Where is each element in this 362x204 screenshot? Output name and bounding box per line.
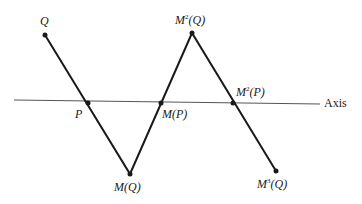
label-M2Q-arg: (Q) <box>189 13 206 27</box>
label-M2P-base: M <box>236 85 246 99</box>
label-M3Q: M3(Q) <box>257 178 287 190</box>
label-Q-text: Q <box>40 14 49 28</box>
label-M3Q-arg: (Q) <box>271 177 288 191</box>
label-M2P: M2(P) <box>236 86 265 98</box>
axis-label: Axis <box>324 97 347 109</box>
label-MQ-base: M <box>114 180 124 194</box>
label-MP-arg: (P) <box>172 107 187 121</box>
point-MP <box>159 101 164 106</box>
point-M2P <box>231 101 236 106</box>
point-Q <box>43 33 48 38</box>
point-P <box>86 101 91 106</box>
label-Q: Q <box>40 15 49 27</box>
label-MQ-arg: (Q) <box>124 180 141 194</box>
label-M2Q-base: M <box>175 13 185 27</box>
label-P: P <box>75 108 82 120</box>
label-P-text: P <box>75 107 82 121</box>
point-MQ <box>128 172 133 177</box>
axis-line <box>14 100 320 104</box>
label-MP-base: M <box>162 107 172 121</box>
label-MQ: M(Q) <box>114 181 141 193</box>
label-MP: M(P) <box>162 108 187 120</box>
reflection-diagram: Q P M(Q) M(P) M2(Q) M2(P) M3(Q) Axis <box>0 0 362 204</box>
label-M2P-arg: (P) <box>250 85 265 99</box>
label-M2Q: M2(Q) <box>175 14 205 26</box>
point-M3Q <box>274 169 279 174</box>
label-M3Q-base: M <box>257 177 267 191</box>
point-M2Q <box>190 31 195 36</box>
diagram-svg <box>0 0 362 204</box>
